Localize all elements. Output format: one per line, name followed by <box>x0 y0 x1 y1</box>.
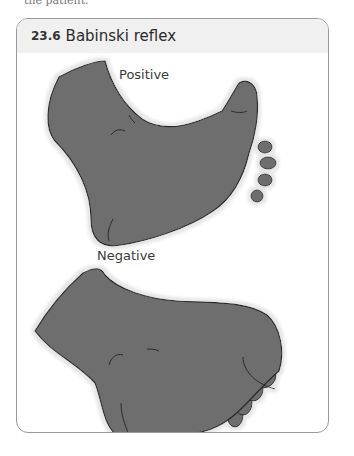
figure-illustration: Positive Negative <box>17 53 329 433</box>
positive-foot <box>48 61 276 246</box>
foot-illustrations <box>17 53 329 433</box>
figure-header: 23.6 Babinski reflex <box>17 19 328 53</box>
figure-number: 23.6 <box>31 29 61 43</box>
figure-title: Babinski reflex <box>66 27 176 45</box>
negative-foot <box>35 269 282 433</box>
panel-label-negative: Negative <box>97 248 155 263</box>
panel-label-positive: Positive <box>119 67 169 82</box>
figure-box: 23.6 Babinski reflex <box>16 18 329 433</box>
cutoff-body-text: the patient. <box>24 0 89 7</box>
